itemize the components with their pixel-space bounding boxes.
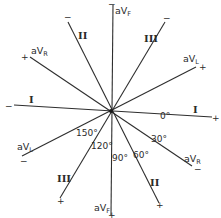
lead-III-negative-sign: − [163,13,171,23]
lead-aVR-negative-sign: − [194,164,202,174]
lead-aVR-label-top: aVR [31,45,48,58]
lead-I-label-right: I [193,104,198,115]
lead-I-label-left: I [29,94,34,105]
lead-II-negative-sign: − [64,12,72,22]
lead-III-label-top: III [144,33,158,44]
angle-90-label: 90° [112,153,128,163]
lead-lines [14,5,212,215]
lead-II-positive-sign: + [156,200,164,210]
angle-labels: 0° 30° 60° 90° 120° 150° [76,111,170,163]
lead-I-positive-sign: + [212,113,220,123]
lead-III-positive-sign: + [57,196,65,206]
angle-120-label: 120° [91,141,113,151]
lead-aVF-positive-sign: + [108,210,116,218]
lead-I-negative-sign: − [5,101,13,111]
lead-aVF-label-top: aVF [115,5,131,18]
angle-150-label: 150° [76,128,98,138]
lead-aVR-positive-sign: + [21,52,29,62]
lead-aVL-negative-sign: − [20,156,28,166]
angle-0-label: 0° [160,111,170,121]
angle-30-label: 30° [151,134,167,144]
angle-60-label: 60° [133,150,149,160]
lead-aVL-label-top: aVL [183,53,199,66]
lead-II-label-bottom: II [150,177,160,188]
lead-aVL-positive-sign: + [199,62,207,72]
center-point [109,109,113,113]
hexaxial-diagram: − + I I − aVF aVF + + aVR aVR − aVL + aV… [0,0,221,218]
lead-aVL-label-bottom: aVL [17,141,33,154]
lead-III-label-bottom: III [57,173,71,184]
lead-II-label-top: II [78,30,88,41]
